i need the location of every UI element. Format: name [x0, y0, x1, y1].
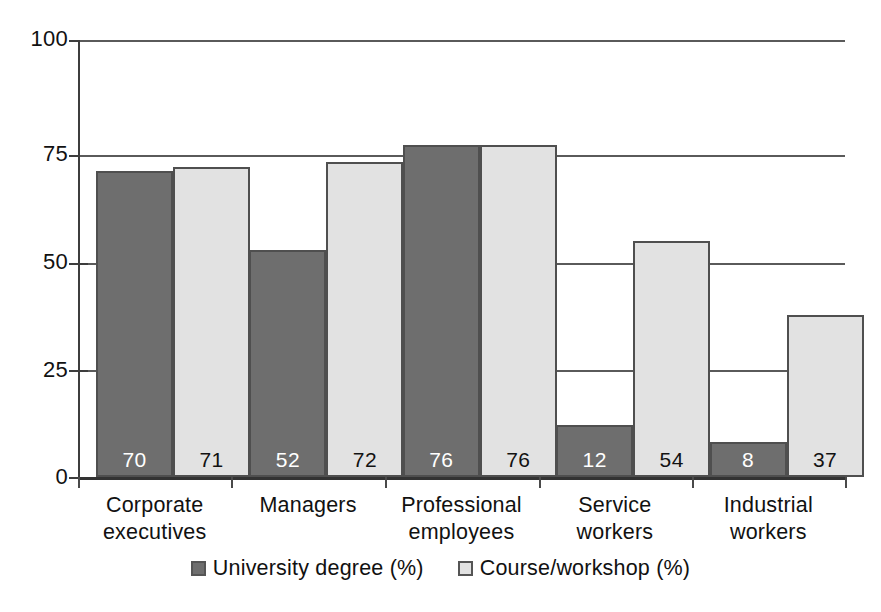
- bar-course-workshop-1[interactable]: 72: [326, 162, 403, 477]
- bar-university-degree-3[interactable]: 12: [556, 425, 633, 477]
- y-tick-label-25: 25: [43, 359, 68, 381]
- x-tick-1: [231, 477, 233, 488]
- category-label-line: workers: [538, 519, 691, 546]
- category-label-line: Industrial: [692, 492, 845, 519]
- x-tick-3: [539, 477, 541, 488]
- bar-university-degree-4[interactable]: 8: [710, 442, 787, 477]
- bar-value-label: 76: [405, 449, 478, 471]
- y-tick-100: [69, 40, 78, 42]
- x-tick-4: [692, 477, 694, 488]
- legend-label-series-0: University degree (%): [213, 556, 424, 580]
- bar-university-degree-0[interactable]: 70: [96, 171, 173, 477]
- y-axis-labels: 100 75 50 25 0: [0, 0, 68, 612]
- legend-swatch-icon-series-0: [191, 561, 206, 576]
- x-axis-category-label: Serviceworkers: [538, 492, 691, 546]
- category-label-line: Corporate: [78, 492, 231, 519]
- legend-label-series-1: Course/workshop (%): [480, 556, 691, 580]
- y-tick-75: [69, 155, 78, 157]
- bars-layer: 7071527276761254837: [78, 40, 845, 477]
- x-axis-category-label: Professionalemployees: [385, 492, 538, 546]
- x-tick-5: [845, 477, 847, 488]
- bar-university-degree-1[interactable]: 52: [249, 250, 326, 477]
- y-tick-0: [69, 477, 78, 479]
- category-label-line: Professional: [385, 492, 538, 519]
- bar-course-workshop-2[interactable]: 76: [480, 145, 557, 477]
- y-tick-label-50: 50: [43, 251, 68, 273]
- bar-university-degree-2[interactable]: 76: [403, 145, 480, 477]
- y-tick-label-100: 100: [30, 28, 68, 50]
- bar-value-label: 12: [558, 449, 631, 471]
- category-label-line: Managers: [231, 492, 384, 519]
- bar-course-workshop-0[interactable]: 71: [173, 167, 250, 477]
- bar-value-label: 72: [328, 449, 401, 471]
- category-label-line: workers: [692, 519, 845, 546]
- y-tick-25: [69, 370, 78, 372]
- category-label-line: employees: [385, 519, 538, 546]
- legend-swatch-icon-series-1: [458, 561, 473, 576]
- bar-course-workshop-3[interactable]: 54: [633, 241, 710, 477]
- x-axis-category-labels: CorporateexecutivesManagersProfessionale…: [78, 492, 845, 554]
- axis-x-baseline: [78, 477, 845, 480]
- x-tick-2: [385, 477, 387, 488]
- category-label-line: Service: [538, 492, 691, 519]
- bar-value-label: 8: [712, 449, 785, 471]
- y-tick-label-0: 0: [55, 466, 68, 488]
- x-axis-category-label: Corporateexecutives: [78, 492, 231, 546]
- x-axis-category-label: Managers: [231, 492, 384, 519]
- bar-value-label: 71: [175, 449, 248, 471]
- legend-item-university-degree[interactable]: University degree (%): [191, 556, 424, 580]
- x-axis-category-label: Industrialworkers: [692, 492, 845, 546]
- bar-value-label: 54: [635, 449, 708, 471]
- y-tick-label-75: 75: [43, 143, 68, 165]
- legend-item-course-workshop[interactable]: Course/workshop (%): [458, 556, 691, 580]
- bar-value-label: 52: [251, 449, 324, 471]
- bar-value-label: 70: [98, 449, 171, 471]
- bar-value-label: 76: [482, 449, 555, 471]
- bar-chart: 100 75 50 25 0 7071527276761254837: [0, 0, 881, 612]
- x-tick-0: [78, 477, 80, 488]
- legend: University degree (%) Course/workshop (%…: [0, 556, 881, 580]
- bar-value-label: 37: [789, 449, 862, 471]
- y-tick-50: [69, 263, 78, 265]
- bar-course-workshop-4[interactable]: 37: [787, 315, 864, 477]
- category-label-line: executives: [78, 519, 231, 546]
